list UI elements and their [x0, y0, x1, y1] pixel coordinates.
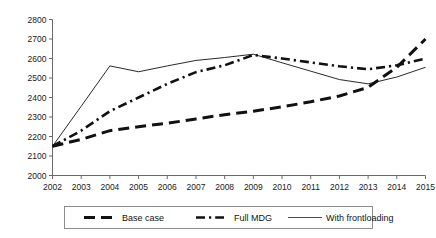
x-tick-label: 2012	[330, 182, 349, 192]
y-tick-label: 2600	[28, 54, 47, 64]
x-tick-label: 2008	[215, 182, 234, 192]
y-tick-label: 2300	[28, 112, 47, 122]
legend-label-1: Full MDG	[234, 213, 272, 223]
line-chart: 200021002200230024002500260027002800 200…	[0, 0, 436, 238]
x-tick-label: 2009	[244, 182, 263, 192]
legend-label-0: Base case	[122, 213, 164, 223]
x-tick-label: 2004	[100, 182, 119, 192]
y-tick-label: 2100	[28, 151, 47, 161]
y-tick-label: 2200	[28, 132, 47, 142]
x-tick-label: 2003	[72, 182, 91, 192]
legend-items: Base caseFull MDGWith frontloading	[84, 213, 394, 223]
y-tick-labels: 200021002200230024002500260027002800	[28, 15, 47, 181]
y-tick-label: 2000	[28, 171, 47, 181]
y-tick-label: 2400	[28, 93, 47, 103]
x-tick-label: 2011	[302, 182, 321, 192]
x-tick-label: 2007	[187, 182, 206, 192]
chart-container: 200021002200230024002500260027002800 200…	[0, 0, 436, 238]
x-tick-label: 2002	[43, 182, 62, 192]
chart-background	[0, 0, 436, 238]
x-tick-label: 2005	[129, 182, 148, 192]
x-tick-label: 2010	[273, 182, 292, 192]
chart-legend: Base caseFull MDGWith frontloading	[65, 207, 394, 229]
legend-label-2: With frontloading	[326, 213, 394, 223]
y-tick-label: 2500	[28, 73, 47, 83]
y-tick-label: 2700	[28, 34, 47, 44]
y-tick-label: 2800	[28, 15, 47, 25]
x-tick-label: 2006	[158, 182, 177, 192]
x-tick-label: 2015	[416, 182, 435, 192]
x-tick-label: 2014	[387, 182, 406, 192]
x-tick-label: 2013	[359, 182, 378, 192]
